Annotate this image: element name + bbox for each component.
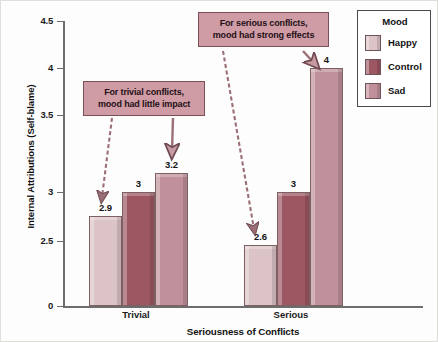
bar-value-serious-control: 3 <box>277 178 310 189</box>
bar-value-trivial-happy: 2.9 <box>89 202 122 213</box>
bar-left-highlight <box>156 174 160 305</box>
bar-trivial-control[interactable] <box>122 192 155 306</box>
callout-trivial-line1: For trivial conflicts, <box>89 86 199 98</box>
bar-left-highlight <box>245 246 249 305</box>
bar-right-shade <box>272 246 276 305</box>
bar-trivial-sad[interactable] <box>155 173 188 306</box>
bar-right-shade <box>150 193 154 305</box>
bar-trivial-happy[interactable] <box>89 216 122 306</box>
bar-serious-control[interactable] <box>277 192 310 306</box>
bar-value-serious-sad: 4 <box>310 54 343 65</box>
legend-title: Mood <box>358 16 432 27</box>
bar-value-trivial-sad: 3.2 <box>155 159 188 170</box>
y-tick-label-3.5: 3.5 <box>40 109 53 120</box>
bar-right-shade <box>338 69 342 305</box>
legend-swatch-happy <box>365 35 381 51</box>
swatch-highlight <box>366 60 369 74</box>
bar-left-highlight <box>278 193 282 305</box>
swatch-highlight <box>366 36 369 50</box>
legend-label-happy: Happy <box>388 37 417 48</box>
y-tick-label-4.5: 4.5 <box>40 15 53 26</box>
y-tick-label-0: 0 <box>48 300 53 311</box>
y-axis-line <box>63 21 65 307</box>
chart-figure: 4.5 4 3.5 3 2.5 0 Internal Attributions … <box>0 0 438 342</box>
y-tick-label-3: 3 <box>48 186 53 197</box>
legend-item-sad[interactable]: Sad <box>365 83 429 103</box>
y-tick-mark-4.5 <box>57 21 63 22</box>
callout-serious-line1: For serious conflicts, <box>204 17 323 29</box>
swatch-highlight <box>366 84 369 98</box>
legend-label-sad: Sad <box>388 85 405 96</box>
legend-item-happy[interactable]: Happy <box>365 35 429 55</box>
y-tick-mark-3 <box>57 192 63 193</box>
group-label-trivial: Trivial <box>91 309 181 320</box>
bar-right-shade <box>305 193 309 305</box>
swatch-shade <box>377 60 380 74</box>
bar-right-shade <box>183 174 187 305</box>
x-axis-line <box>63 306 423 308</box>
arrow-trivial-to-sad <box>172 118 173 151</box>
swatch-shade <box>377 36 380 50</box>
y-axis-title: Internal Attributions (Self-blame) <box>25 42 36 272</box>
arrow-trivial-to-happy <box>102 118 112 197</box>
callout-serious-line2: mood had strong effects <box>204 29 323 41</box>
arrow-serious-to-happy <box>223 51 254 229</box>
bar-value-serious-happy: 2.6 <box>244 231 277 242</box>
callout-trivial: For trivial conflicts, mood had little i… <box>83 81 205 116</box>
legend-swatch-control <box>365 59 381 75</box>
bar-serious-sad[interactable] <box>310 68 343 306</box>
bar-value-trivial-control: 3 <box>122 178 155 189</box>
legend-item-control[interactable]: Control <box>365 59 429 79</box>
bar-left-highlight <box>311 69 315 305</box>
y-tick-mark-4 <box>57 68 63 69</box>
legend-swatch-sad <box>365 83 381 99</box>
legend-label-control: Control <box>388 61 422 72</box>
swatch-shade <box>377 84 380 98</box>
callout-trivial-line2: mood had little impact <box>89 98 199 110</box>
y-tick-label-2.5: 2.5 <box>40 235 53 246</box>
bar-right-shade <box>117 217 121 305</box>
x-axis-title: Seriousness of Conflicts <box>63 326 423 337</box>
y-tick-label-4: 4 <box>48 62 53 73</box>
callout-serious: For serious conflicts, mood had strong e… <box>198 12 329 47</box>
bar-left-highlight <box>123 193 127 305</box>
y-tick-mark-2.5 <box>57 241 63 242</box>
bar-left-highlight <box>90 217 94 305</box>
y-tick-mark-3.5 <box>57 115 63 116</box>
legend: Mood Happy Control Sad <box>357 10 431 107</box>
y-tick-mark-0 <box>57 306 63 307</box>
group-label-serious: Serious <box>246 309 336 320</box>
bar-serious-happy[interactable] <box>244 245 277 306</box>
